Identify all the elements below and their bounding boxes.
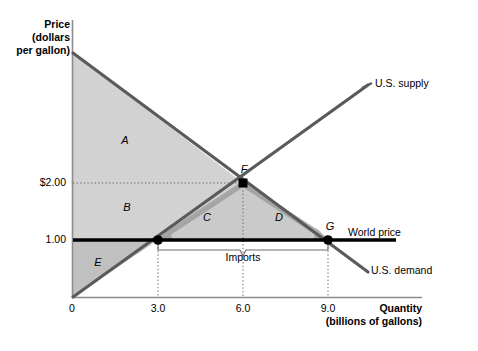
x-tick-label-0: 0 [58,303,86,315]
point-g-marker [323,235,333,245]
imports-label: Imports [208,252,278,264]
x-tick-label-6-0: 6.0 [227,303,259,315]
world-price-label: World price [348,227,401,239]
point-label-g: G [319,220,341,232]
point-label-f: F [233,163,255,175]
x-tick-label-3-0: 3.0 [142,303,174,315]
economics-supply-demand-figure: Price (dollars per gallon) $2.00 1.00 0 … [0,0,478,351]
y-tick-label-1-00: 1.00 [18,234,66,246]
region-label-a: A [114,134,136,146]
x-axis-title-sub: (billions of gallons) [282,316,422,328]
us-demand-label: U.S. demand [371,265,432,277]
y-axis-title-sub-2: per gallon) [0,45,70,57]
region-label-c: C [196,211,218,223]
region-label-b: B [116,201,138,213]
region-label-d: D [268,211,290,223]
chart-canvas [0,0,478,351]
point-f-marker [239,179,248,188]
point-h-marker [153,235,163,245]
x-axis-title: Quantity [322,303,422,315]
y-axis-title-sub-1: (dollars [8,32,70,44]
y-axis-title: Price [8,19,70,31]
y-tick-label-2-00: $2.00 [18,177,66,189]
region-label-e: E [87,256,109,268]
us-supply-label: U.S. supply [375,78,429,90]
